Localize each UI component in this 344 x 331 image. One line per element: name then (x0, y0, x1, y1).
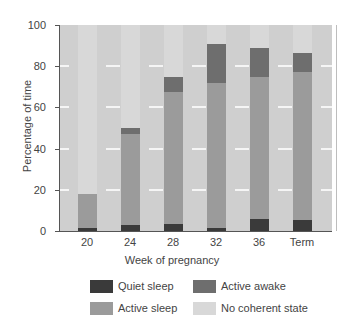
y-tick-40: 40 (20, 143, 46, 155)
segment-active-awake (293, 53, 312, 73)
segment-no-coherent-state (164, 25, 183, 77)
gridline (192, 189, 206, 191)
x-tick-28: 28 (153, 236, 193, 248)
gridline (149, 189, 163, 191)
segment-no-coherent-state (121, 25, 140, 128)
segment-active-sleep (78, 194, 97, 228)
y-tick-100: 100 (20, 19, 46, 31)
segment-active-awake (250, 48, 269, 77)
gridline (149, 148, 163, 150)
bar-week-24 (121, 25, 140, 231)
legend-swatch-active-sleep (90, 302, 113, 315)
gridline (60, 106, 69, 108)
bar-week-32 (207, 25, 226, 231)
bar-week-36 (250, 25, 269, 231)
legend-swatch-quiet-sleep (90, 280, 113, 293)
segment-active-sleep (121, 134, 140, 225)
x-tick-32: 32 (196, 236, 236, 248)
x-tick-36: 36 (239, 236, 279, 248)
x-tick-term: Term (282, 236, 322, 248)
segment-active-awake (164, 77, 183, 92)
gridline (321, 65, 332, 67)
gridline (235, 189, 249, 191)
gridline (149, 106, 163, 108)
bar-week-28 (164, 25, 183, 231)
legend-label-active-awake: Active awake (221, 280, 286, 292)
segment-active-sleep (293, 72, 312, 219)
segment-quiet-sleep (207, 228, 226, 231)
gridline (235, 106, 249, 108)
gridline (106, 65, 120, 67)
gridline (321, 106, 332, 108)
segment-quiet-sleep (121, 225, 140, 231)
y-axis-label: Percentage of time (21, 71, 33, 181)
legend-label-no-coherent-state: No coherent state (221, 302, 308, 314)
legend-swatch-active-awake (193, 280, 216, 293)
gridline (321, 148, 332, 150)
legend-swatch-no-coherent-state (193, 302, 216, 315)
gridline (235, 148, 249, 150)
segment-no-coherent-state (250, 25, 269, 48)
gridline (60, 189, 69, 191)
y-tick-0: 0 (20, 225, 46, 237)
segment-active-sleep (207, 83, 226, 228)
gridline (278, 189, 292, 191)
bar-week-20 (78, 25, 97, 231)
gridline (321, 189, 332, 191)
gridline (192, 106, 206, 108)
legend-label-quiet-sleep: Quiet sleep (118, 280, 174, 292)
segment-quiet-sleep (164, 224, 183, 231)
bar-week-term (293, 25, 312, 231)
gridline (192, 65, 206, 67)
gridline (106, 189, 120, 191)
gridline (192, 148, 206, 150)
x-axis-label: Week of pregnancy (0, 254, 344, 266)
gridline (106, 106, 120, 108)
column-separator (336, 25, 337, 231)
gridline (235, 65, 249, 67)
x-tick-24: 24 (110, 236, 150, 248)
segment-no-coherent-state (207, 25, 226, 44)
legend-label-active-sleep: Active sleep (118, 302, 177, 314)
gridline (106, 148, 120, 150)
gridline (278, 106, 292, 108)
segment-quiet-sleep (78, 228, 97, 231)
y-tick-20: 20 (20, 184, 46, 196)
plot-area (59, 25, 332, 232)
segment-active-awake (207, 44, 226, 83)
x-tick-20: 20 (67, 236, 107, 248)
segment-no-coherent-state (78, 25, 97, 194)
segment-active-awake (121, 128, 140, 134)
segment-no-coherent-state (293, 25, 312, 53)
segment-quiet-sleep (250, 219, 269, 231)
segment-quiet-sleep (293, 220, 312, 231)
y-tick-80: 80 (20, 60, 46, 72)
gridline (278, 148, 292, 150)
y-tick-60: 60 (20, 101, 46, 113)
segment-active-sleep (250, 77, 269, 219)
gridline (60, 148, 69, 150)
gridline (149, 65, 163, 67)
segment-active-sleep (164, 92, 183, 224)
gridline (60, 65, 69, 67)
gridline (278, 65, 292, 67)
